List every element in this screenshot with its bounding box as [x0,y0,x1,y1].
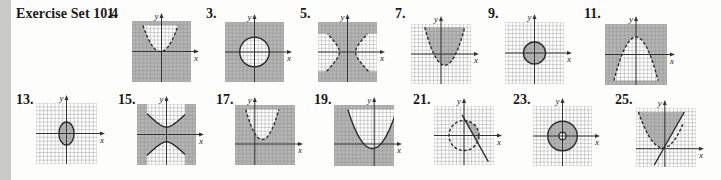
exercise-number: 11. [584,6,601,22]
svg-text:y: y [59,93,64,103]
svg-text:y: y [527,12,532,22]
exercise-number: 7. [395,6,406,22]
graph-ex23: yx [533,106,592,166]
exercise-number: 17. [216,92,234,108]
svg-text:y: y [247,95,252,105]
graph-ex7: yx [411,24,471,84]
exercise-number: 13. [16,92,34,108]
section-title: Exercise Set 10.4 [16,6,118,22]
svg-text:y: y [657,98,662,108]
graph-ex15: yx [137,104,196,165]
graph-ex5: yx [318,22,377,82]
svg-text:y: y [154,11,159,21]
exercise-number: 5. [300,6,311,22]
exercise-number: 1. [107,6,118,22]
svg-text:y: y [340,12,345,22]
svg-text:x: x [379,53,384,63]
graph-ex11: yx [605,24,667,85]
graph-ex3: yx [225,22,284,82]
svg-text:x: x [496,137,501,147]
svg-text:x: x [193,53,198,63]
graph-ex21: yx [434,106,494,165]
svg-text:x: x [669,56,674,66]
graph-ex17: yx [235,105,295,165]
graph-ex13: yx [36,103,97,164]
exercise-number: 19. [314,92,332,108]
svg-text:y: y [366,95,371,105]
svg-text:x: x [473,55,478,65]
svg-text:x: x [396,145,401,155]
page-edge-strip [0,0,11,180]
svg-text:x: x [198,136,203,146]
exercise-number: 9. [488,6,499,22]
svg-text:y: y [433,14,438,24]
svg-text:y: y [159,94,164,104]
svg-text:x: x [566,54,571,64]
exercise-number: 23. [513,92,531,108]
svg-text:x: x [99,135,104,145]
exercise-number: 15. [118,92,136,108]
svg-text:y: y [628,14,633,24]
exercise-number: 25. [615,92,633,108]
graph-ex25: yx [636,108,696,167]
graph-ex1: yx [132,21,191,82]
svg-text:x: x [594,137,599,147]
svg-text:x: x [286,53,291,63]
exercise-number: 3. [206,6,217,22]
svg-text:x: x [698,150,703,160]
exercise-number: 21. [413,92,431,108]
svg-text:y: y [247,12,252,22]
svg-text:x: x [297,145,302,155]
svg-text:y: y [456,96,461,106]
svg-text:y: y [555,96,560,106]
graph-ex19: yx [334,105,394,166]
graph-ex9: yx [505,22,564,84]
